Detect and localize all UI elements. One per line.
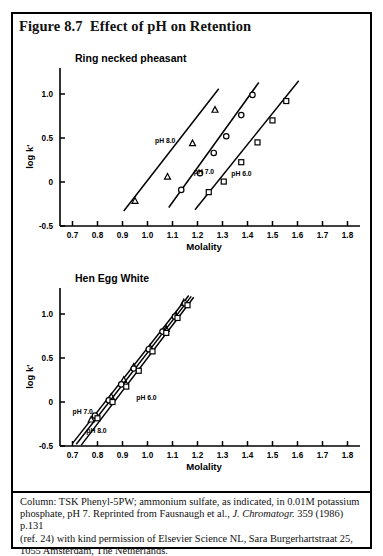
x-tick-label: 1.2 [192, 231, 204, 240]
data-point [239, 160, 244, 165]
x-tick-label: 1.4 [242, 231, 254, 240]
data-point [119, 382, 124, 387]
data-point [270, 118, 275, 123]
x-tick-label: 0.8 [92, 451, 104, 460]
x-axis-label: Molality [186, 461, 222, 472]
x-tick-label: 1.0 [142, 231, 154, 240]
series-annotation: pH 7.0 [194, 168, 215, 176]
data-point [185, 303, 190, 308]
series-annotation: pH 6.0 [136, 394, 157, 402]
data-point [150, 349, 155, 354]
data-point [190, 140, 196, 146]
x-tick-label: 1.7 [317, 231, 329, 240]
chart-top: -0.500.51.00.70.80.91.01.11.21.31.41.51.… [13, 50, 372, 270]
x-tick-label: 1.1 [167, 231, 179, 240]
series-annotation: pH 7.0 [73, 408, 94, 416]
x-tick-label: 1.0 [142, 451, 154, 460]
data-point [95, 416, 100, 421]
series-ph-8-0: pH 8.0 [124, 89, 219, 211]
x-tick-label: 1.5 [267, 231, 279, 240]
data-point [165, 174, 171, 180]
figure-title: Figure 8.7 Effect of pH on Retention [19, 18, 251, 35]
y-tick-label: 0.5 [42, 354, 54, 363]
y-axis-label: log k' [24, 365, 35, 389]
x-tick-label: 1.6 [292, 451, 304, 460]
series-annotation: pH 6.0 [231, 170, 252, 178]
x-tick-label: 1.3 [217, 451, 229, 460]
y-axis-label: log k' [24, 145, 35, 169]
x-tick-label: 0.9 [117, 451, 129, 460]
y-tick-label: 0 [48, 398, 53, 407]
x-tick-label: 1.4 [242, 451, 254, 460]
x-tick-label: 0.7 [67, 231, 79, 240]
x-axis-label: Molality [186, 241, 222, 252]
caption-line-1: Column: TSK Phenyl-5PW; ammonium sulfate… [20, 496, 359, 507]
caption-line-3: (ref. 24) with kind permission of Elsevi… [20, 533, 353, 544]
y-tick-label: 1.0 [42, 310, 54, 319]
data-point [136, 368, 141, 373]
series-annotation: pH 8.0 [155, 137, 176, 145]
data-point [255, 140, 260, 145]
caption-journal: J. Chromatogr. [232, 508, 294, 519]
y-tick-label: -0.5 [39, 442, 54, 451]
data-point [124, 384, 129, 389]
x-tick-label: 1.3 [217, 231, 229, 240]
data-point [179, 187, 184, 192]
y-tick-label: 1.0 [42, 90, 54, 99]
y-tick-label: -0.5 [39, 222, 54, 231]
x-tick-label: 1.6 [292, 231, 304, 240]
data-point [175, 315, 180, 320]
caption-line-4: 1055 Amsterdam, The Netherlands. [20, 545, 168, 556]
data-point [221, 179, 226, 184]
x-tick-label: 1.8 [342, 231, 354, 240]
data-point [206, 190, 211, 195]
y-tick-label: 0.5 [42, 134, 54, 143]
chart-panel-ring-necked-pheasant: Ring necked pheasant -0.500.51.00.70.80.… [13, 50, 372, 270]
data-point [164, 330, 169, 335]
data-point [224, 134, 229, 139]
x-tick-label: 0.9 [117, 231, 129, 240]
x-tick-label: 0.7 [67, 451, 79, 460]
caption-line-2-head: phosphate, pH 7. Reprinted from Fausnaug… [20, 508, 232, 519]
x-tick-label: 1.2 [192, 451, 204, 460]
data-point [239, 112, 244, 117]
x-tick-label: 1.7 [317, 451, 329, 460]
figure-box: Figure 8.7 Effect of pH on Retention Rin… [11, 12, 372, 549]
data-point [250, 92, 255, 97]
series-ph-7-0: pH 7.0 [169, 83, 259, 208]
figure-caption: Column: TSK Phenyl-5PW; ammonium sulfate… [13, 491, 370, 556]
chart-bottom: -0.500.51.00.70.80.91.01.11.21.31.41.51.… [13, 270, 372, 490]
data-point [131, 366, 136, 371]
data-point [212, 107, 218, 113]
data-point [110, 400, 115, 405]
y-tick-label: 0 [48, 178, 53, 187]
figure-page: Figure 8.7 Effect of pH on Retention Rin… [0, 0, 383, 556]
data-point [284, 99, 289, 104]
x-tick-label: 1.1 [167, 451, 179, 460]
data-point [211, 150, 216, 155]
series-ph-6-0: pH 6.0 [81, 297, 194, 445]
x-tick-label: 1.5 [267, 451, 279, 460]
x-tick-label: 1.8 [342, 451, 354, 460]
x-tick-label: 0.8 [92, 231, 104, 240]
chart-panel-hen-egg-white: Hen Egg White -0.500.51.00.70.80.91.01.1… [13, 270, 372, 490]
